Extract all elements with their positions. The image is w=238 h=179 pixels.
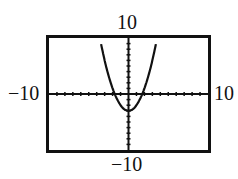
graph-window [0, 0, 238, 179]
